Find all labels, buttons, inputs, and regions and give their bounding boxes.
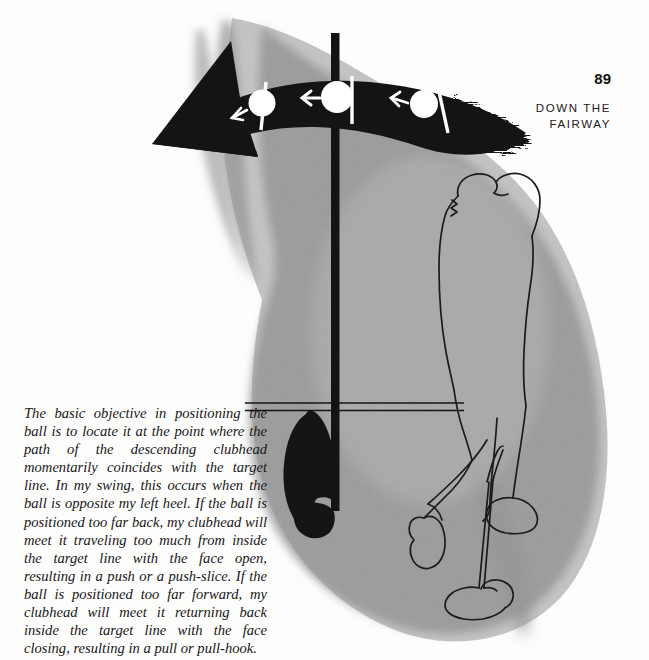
shadow-highlight bbox=[310, 155, 550, 505]
page-number: 89 bbox=[594, 70, 611, 87]
book-page: 89 DOWN THE FAIRWAY The basic objective … bbox=[0, 0, 649, 660]
running-head-line-1: DOWN THE bbox=[451, 100, 611, 116]
running-head-line-2: FAIRWAY bbox=[451, 116, 611, 132]
caption-text: The basic objective in positioning the b… bbox=[24, 404, 267, 657]
running-head: DOWN THE FAIRWAY bbox=[451, 100, 611, 132]
